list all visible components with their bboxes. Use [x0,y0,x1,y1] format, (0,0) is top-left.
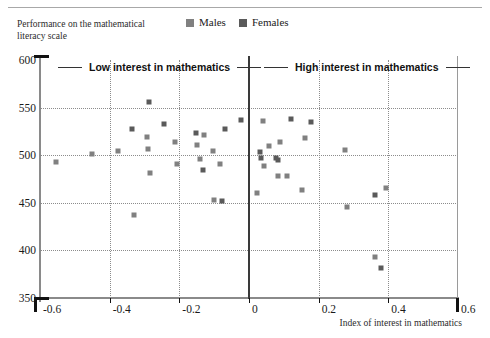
annotation-rule-right [446,67,470,68]
y-tick-label-500: 500 [19,149,36,161]
y-axis-title: Performance on the mathematical literacy… [17,19,167,42]
legend-swatch-females [239,19,247,27]
y-tick-label-400: 400 [19,244,36,256]
data-point-males [254,191,259,196]
data-point-males [278,139,283,144]
y-tick-label-600: 600 [19,54,36,66]
data-point-males [284,174,289,179]
legend-label-females: Females [252,17,289,28]
plot-right-border [457,56,458,299]
x-tick-mark--0.2 [179,298,180,303]
data-point-males [383,185,388,190]
x-tick-label-0.6: 0.6 [461,303,475,315]
data-point-females [258,150,263,155]
data-point-females [129,126,134,131]
data-point-males [144,135,149,140]
zero-reference-line [248,56,250,299]
x-tick-label-0.2: 0.2 [322,303,336,315]
gridline-v-0.4 [388,60,389,298]
data-point-males [132,213,137,218]
data-point-males [145,146,150,151]
data-point-males [195,142,200,147]
y-axis-line [39,56,41,302]
y-tick-label-550: 550 [19,102,36,114]
x-tick-mark--0.4 [110,298,111,303]
data-point-males [53,159,58,164]
x-tick-label--0.2: -0.2 [182,303,200,315]
data-point-males [197,157,202,162]
legend-label-males: Males [199,17,226,28]
y-axis-top-cap [34,55,49,58]
x-axis-title: Index of interest in mathematics [340,318,462,328]
data-point-males [172,139,177,144]
annotation-low-interest: Low interest in mathematics [58,61,261,73]
data-point-males [275,174,280,179]
chart-page: Performance on the mathematical literacy… [0,0,490,338]
data-point-males [218,161,223,166]
data-point-females [219,198,224,203]
data-point-males [303,136,308,141]
data-point-males [267,143,272,148]
data-point-males [299,188,304,193]
data-point-males [174,161,179,166]
x-tick-label-0: 0 [252,303,258,315]
data-point-females [288,117,293,122]
data-point-females [146,99,151,104]
data-point-females [194,131,199,136]
data-point-females [378,266,383,271]
data-point-females [309,119,314,124]
data-point-males [373,255,378,260]
header-rule [8,7,482,8]
x-tick-mark-0 [249,298,250,303]
x-tick-label--0.6: -0.6 [43,303,61,315]
annotation-high-label: High interest in mathematics [295,61,439,73]
x-tick-mark-0.2 [319,298,320,303]
chart-legend: Males Females [186,17,289,28]
data-point-females [238,117,243,122]
data-point-males [211,149,216,154]
y-tick-label-350: 350 [19,292,36,304]
x-tick-label-0.4: 0.4 [391,303,405,315]
data-point-females [373,193,378,198]
gridline-v-0.2 [319,60,320,298]
x-tick-label--0.4: -0.4 [113,303,131,315]
data-point-males [148,171,153,176]
x-axis-right-end-tick [456,298,459,312]
annotation-high-interest: High interest in mathematics [264,61,470,73]
annotation-low-label: Low interest in mathematics [89,61,230,73]
data-point-males [212,197,217,202]
plot-area: 600550500450400350 -0.6-0.4-0.200.20.40.… [40,60,458,298]
data-point-males [260,118,265,123]
data-point-females [222,127,227,132]
gridline-v--0.2 [179,60,180,298]
annotation-rule-left [58,67,82,68]
data-point-males [344,204,349,209]
data-point-females [275,157,280,162]
legend-item-males: Males [186,17,226,28]
legend-item-females: Females [239,17,289,28]
data-point-males [202,133,207,138]
legend-swatch-males [186,19,194,27]
data-point-males [261,163,266,168]
x-tick-mark-0.4 [388,298,389,303]
annotation-rule-mid-left [237,67,261,68]
data-point-females [161,121,166,126]
data-point-males [116,149,121,154]
annotation-rule-mid-right [264,67,288,68]
y-tick-label-450: 450 [19,197,36,209]
data-point-females [200,168,205,173]
data-point-females [259,156,264,161]
data-point-males [342,148,347,153]
data-point-males [89,152,94,157]
gridline-v--0.4 [110,60,111,298]
